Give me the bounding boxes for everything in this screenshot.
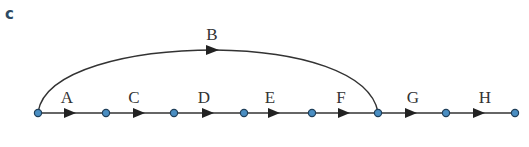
arrow-diagram: A C D E F G H B bbox=[0, 0, 529, 147]
node-3 bbox=[170, 109, 177, 116]
arrow-icon-g bbox=[405, 108, 417, 118]
arrow-icon-c bbox=[133, 108, 145, 118]
edge-label-h: H bbox=[479, 88, 491, 107]
node-2 bbox=[102, 109, 109, 116]
node-4 bbox=[240, 109, 247, 116]
node-1 bbox=[34, 109, 41, 116]
edge-label-a: A bbox=[61, 88, 74, 107]
edge-label-g: G bbox=[407, 88, 419, 107]
node-7 bbox=[442, 109, 449, 116]
arrow-icon-h bbox=[473, 108, 485, 118]
edge-labels: A C D E F G H B bbox=[61, 25, 491, 107]
edge-label-e: E bbox=[265, 88, 275, 107]
node-6 bbox=[374, 109, 381, 116]
edge-label-b: B bbox=[206, 25, 217, 44]
edge-label-c: C bbox=[128, 88, 139, 107]
arrow-icon-f bbox=[338, 108, 350, 118]
arrow-icon-a bbox=[64, 108, 76, 118]
edge-label-f: F bbox=[336, 88, 345, 107]
arrow-icon-d bbox=[202, 108, 214, 118]
arrow-icon-e bbox=[268, 108, 280, 118]
node-5 bbox=[308, 109, 315, 116]
arrow-icon-b bbox=[206, 45, 219, 55]
node-8 bbox=[511, 109, 518, 116]
edge-label-d: D bbox=[198, 88, 210, 107]
